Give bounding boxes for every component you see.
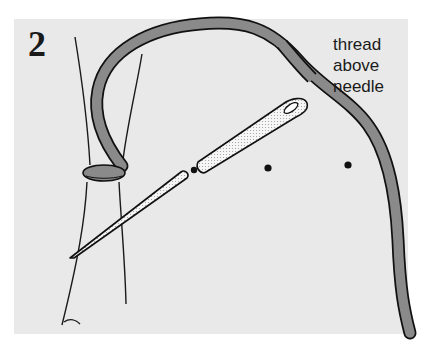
annotation-line-3: needle (333, 76, 384, 97)
step-number: 2 (28, 26, 46, 62)
needle-entry-point (191, 167, 197, 173)
needle-eye-section (197, 99, 307, 173)
thread-wrap (83, 165, 125, 181)
thread-annotation: thread above needle (333, 34, 384, 97)
needle-point (70, 171, 188, 258)
annotation-line-1: thread (333, 34, 384, 55)
stitch-point-2 (344, 161, 351, 168)
annotation-line-2: above (333, 55, 384, 76)
stitch-point-1 (264, 164, 271, 171)
thread-over-needle (281, 43, 313, 79)
